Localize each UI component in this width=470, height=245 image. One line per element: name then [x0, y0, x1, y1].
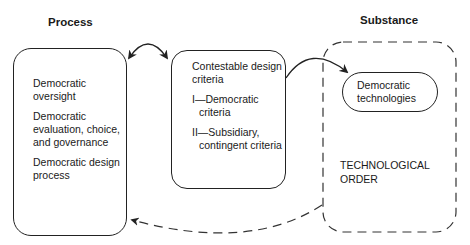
substance-region — [323, 42, 456, 232]
diagram-connectors — [0, 0, 470, 245]
dashed-arrow-substance-to-process — [132, 205, 322, 233]
democratic-technologies-label: Democratic technologies — [357, 79, 427, 105]
technological-order-line1: TECHNOLOGICAL — [340, 158, 430, 172]
democratic-technologies-box: Democratic technologies — [342, 72, 438, 112]
double-arrow-process-criteria — [129, 44, 167, 58]
arrow-criteria-to-technologies — [286, 58, 347, 78]
technological-order-line2: ORDER — [340, 172, 430, 186]
